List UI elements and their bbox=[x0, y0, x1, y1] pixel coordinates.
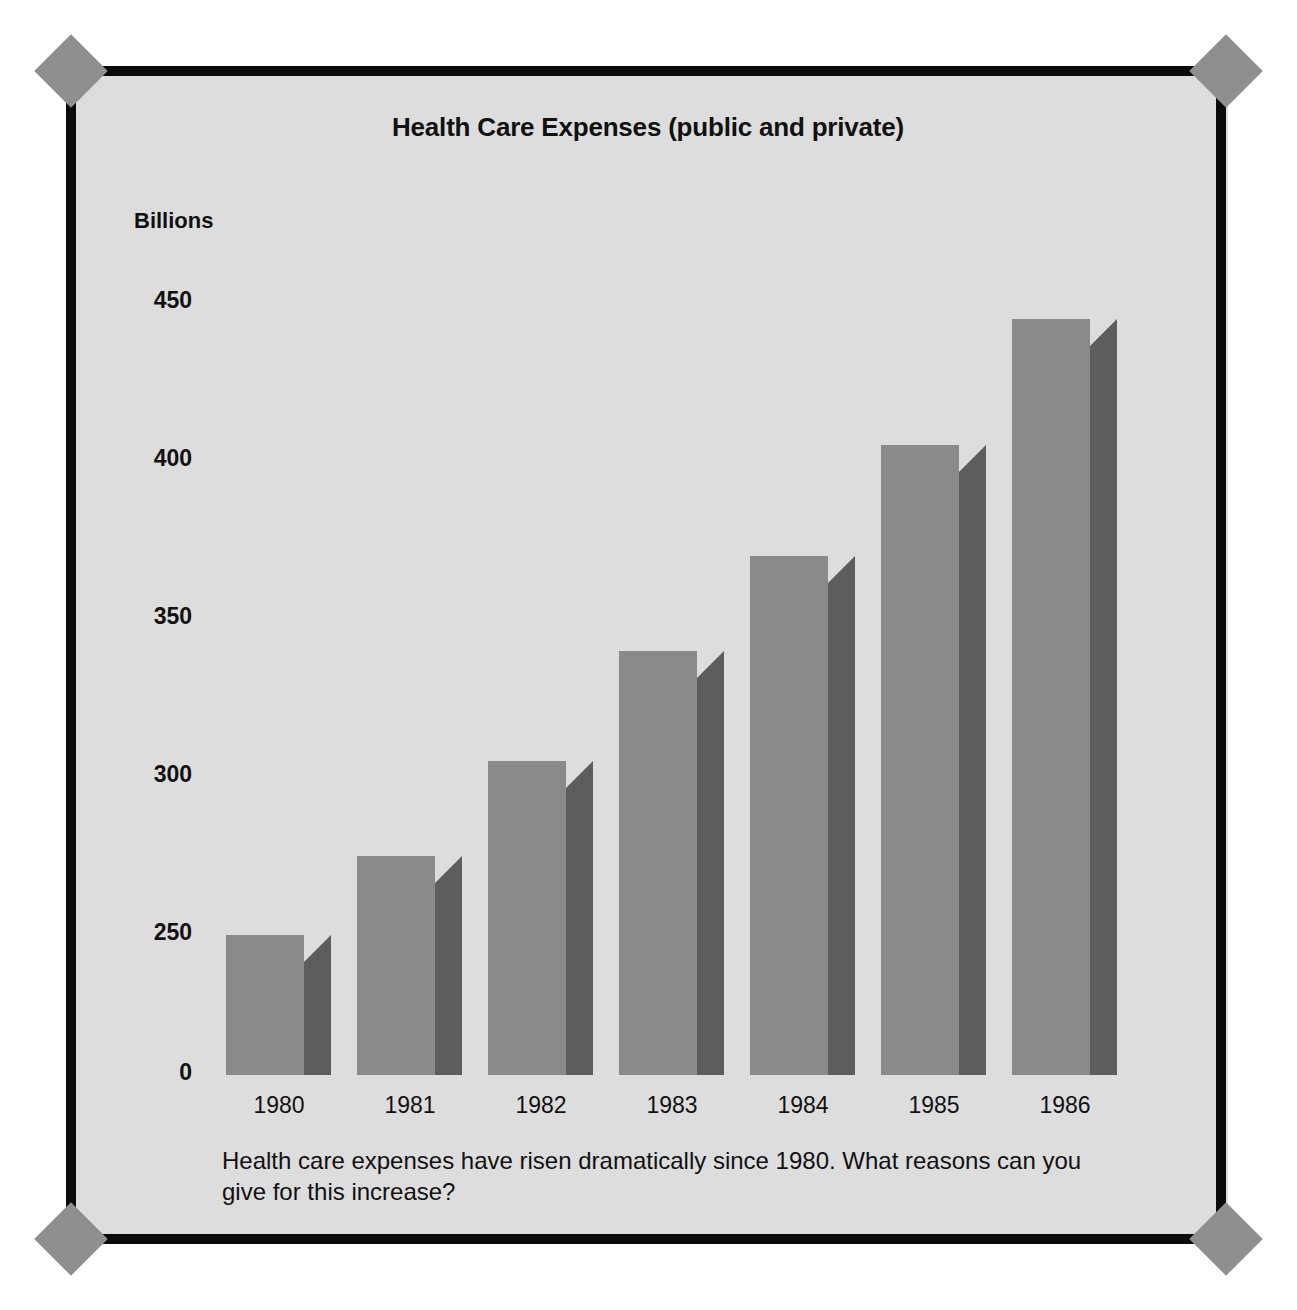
bar-side bbox=[959, 472, 986, 1075]
bar bbox=[619, 0, 724, 1075]
bar bbox=[1012, 0, 1117, 1075]
bar-face bbox=[750, 556, 828, 1075]
bar-face bbox=[226, 935, 304, 1075]
bar bbox=[750, 0, 855, 1075]
bar-side bbox=[697, 678, 724, 1075]
x-axis-tick-label: 1981 bbox=[355, 1092, 465, 1119]
y-axis-tick-label: 250 bbox=[112, 919, 192, 946]
bar-top-bevel bbox=[1090, 319, 1117, 346]
y-axis-tick-label: 450 bbox=[112, 287, 192, 314]
y-axis-tick-label: 300 bbox=[112, 761, 192, 788]
bar-side bbox=[1090, 346, 1117, 1075]
bar-top-bevel bbox=[959, 445, 986, 472]
bar bbox=[488, 0, 593, 1075]
bar bbox=[881, 0, 986, 1075]
bar-side bbox=[304, 962, 331, 1075]
y-axis-tick-label: 0 bbox=[112, 1059, 192, 1086]
x-axis-tick-label: 1983 bbox=[617, 1092, 727, 1119]
bar bbox=[357, 0, 462, 1075]
y-axis-tick-label: 350 bbox=[112, 603, 192, 630]
bar-face bbox=[357, 856, 435, 1075]
bar-top-bevel bbox=[828, 556, 855, 583]
bar-top-bevel bbox=[435, 856, 462, 883]
bar-top-bevel bbox=[304, 935, 331, 962]
figure-caption: Health care expenses have risen dramatic… bbox=[222, 1146, 1102, 1207]
x-axis-tick-label: 1980 bbox=[224, 1092, 334, 1119]
bar-side bbox=[828, 583, 855, 1075]
y-axis-tick-label: 400 bbox=[112, 445, 192, 472]
x-axis-tick-label: 1986 bbox=[1010, 1092, 1120, 1119]
bar-side bbox=[435, 883, 462, 1075]
bar-face bbox=[881, 445, 959, 1075]
x-axis-tick-label: 1984 bbox=[748, 1092, 858, 1119]
chart-plot-area: 4504003503002500198019811982198319841985… bbox=[0, 0, 1297, 1310]
bar-top-bevel bbox=[566, 761, 593, 788]
bar bbox=[226, 0, 331, 1075]
x-axis-tick-label: 1982 bbox=[486, 1092, 596, 1119]
figure-page: Health Care Expenses (public and private… bbox=[0, 0, 1297, 1310]
bar-face bbox=[1012, 319, 1090, 1075]
bar-face bbox=[488, 761, 566, 1075]
bar-top-bevel bbox=[697, 651, 724, 678]
x-axis-tick-label: 1985 bbox=[879, 1092, 989, 1119]
bar-side bbox=[566, 788, 593, 1075]
bar-face bbox=[619, 651, 697, 1075]
